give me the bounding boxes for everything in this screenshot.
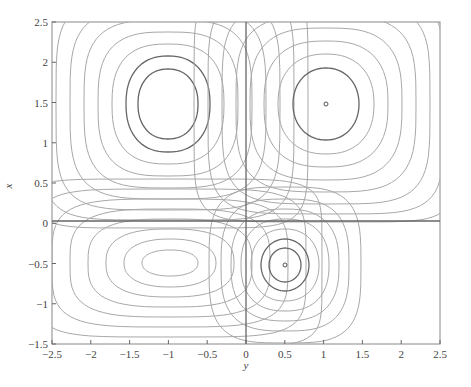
- y-tick-label: −1.5: [28, 338, 48, 350]
- y-tick-label: 2.5: [34, 16, 48, 28]
- y-tick-label: 1.5: [34, 97, 48, 109]
- x-tick-label: −1: [163, 348, 175, 360]
- y-axis-label: x: [2, 183, 14, 189]
- x-axis-label: y: [243, 359, 249, 371]
- x-tick-label: 0.5: [278, 348, 292, 360]
- x-tick-label: 1: [321, 348, 327, 360]
- x-tick-label: 2: [398, 348, 404, 360]
- x-tick-label: −0.5: [197, 348, 217, 360]
- y-tick-label: −0.5: [28, 258, 48, 270]
- y-tick-label: 0.5: [34, 177, 48, 189]
- y-tick-label: 1: [43, 137, 49, 149]
- x-tick-label: 2.5: [433, 348, 447, 360]
- y-tick-label: −1: [36, 298, 48, 310]
- x-tick-label: 1.5: [356, 348, 370, 360]
- y-tick-label: 0: [43, 217, 49, 229]
- x-tick-label: −1.5: [120, 348, 140, 360]
- x-tick-label: −2: [85, 348, 97, 360]
- contour-plot: −2.5−2−1.5−1−0.500.511.522.5 2.521.510.5…: [0, 0, 471, 387]
- y-tick-label: 2: [43, 56, 49, 68]
